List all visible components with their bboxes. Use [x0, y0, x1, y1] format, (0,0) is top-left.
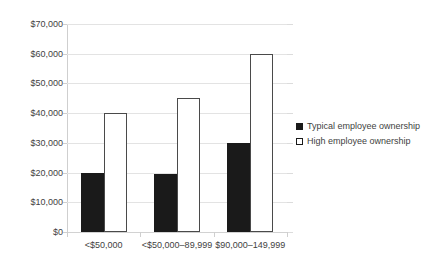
plot-area: [67, 24, 287, 232]
gridline: [67, 232, 287, 233]
bar: [250, 54, 273, 232]
legend-item-label: Typical employee ownership: [307, 121, 420, 132]
right-axis-tick: [287, 83, 293, 84]
x-axis-tick: [214, 232, 215, 237]
y-axis-tick-label: $40,000: [0, 108, 63, 118]
right-axis-tick: [287, 143, 293, 144]
y-axis-tick-label: $70,000: [0, 19, 63, 29]
right-axis-tick: [287, 113, 293, 114]
bar: [177, 98, 200, 232]
y-axis-tick-label-wrap: $50,000: [0, 78, 63, 88]
bar: [104, 113, 127, 232]
y-axis-tick-label-wrap: $10,000: [0, 197, 63, 207]
x-axis-tick: [140, 232, 141, 237]
y-axis-tick-label: $0: [0, 227, 63, 237]
right-axis-tick: [287, 54, 293, 55]
y-axis-tick-label: $30,000: [0, 138, 63, 148]
y-axis-tick-label-wrap: $30,000: [0, 138, 63, 148]
legend-item-label: High employee ownership: [307, 136, 411, 147]
y-axis-tick-label: $50,000: [0, 78, 63, 88]
right-axis-tick: [287, 24, 293, 25]
legend-item[interactable]: High employee ownership: [296, 134, 420, 149]
bar-chart: $0$10,000$20,000$30,000$40,000$50,000$60…: [0, 0, 444, 267]
bar: [154, 174, 177, 232]
y-axis-tick-label-wrap: $20,000: [0, 168, 63, 178]
bar: [227, 143, 250, 232]
x-axis-tick: [67, 232, 68, 237]
bar: [81, 173, 104, 232]
y-axis-tick-label: $20,000: [0, 168, 63, 178]
legend-item[interactable]: Typical employee ownership: [296, 119, 420, 134]
right-axis-tick: [287, 202, 293, 203]
x-axis-category-label: <$50,000: [67, 240, 140, 251]
filled-square-marker: [296, 123, 303, 130]
right-axis-tick: [287, 173, 293, 174]
y-axis-tick-label-wrap: $60,000: [0, 49, 63, 59]
y-axis-tick-label: $60,000: [0, 49, 63, 59]
y-axis-tick-label-wrap: $0: [0, 227, 63, 237]
x-axis-category-label: <$50,000–89,999: [140, 240, 213, 251]
chart-legend: Typical employee ownershipHigh employee …: [296, 119, 420, 149]
y-axis-tick-label-wrap: $70,000: [0, 19, 63, 29]
y-axis-tick-label-wrap: $40,000: [0, 108, 63, 118]
gridline: [67, 24, 287, 25]
outlined-square-marker: [296, 138, 303, 145]
x-axis-category-label: $90,000–149,999: [214, 240, 287, 251]
y-axis-tick-label: $10,000: [0, 197, 63, 207]
x-axis-tick: [287, 232, 288, 237]
